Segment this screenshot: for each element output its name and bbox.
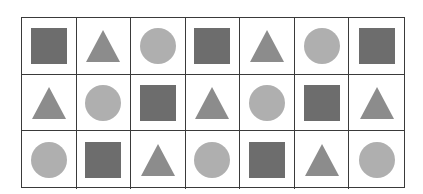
circle-icon <box>304 28 340 64</box>
circle-icon <box>249 85 285 121</box>
triangle-icon <box>195 87 229 119</box>
circle-icon <box>194 142 230 178</box>
square-icon <box>249 142 285 178</box>
grid-cell <box>131 18 186 75</box>
grid-cell <box>295 131 350 189</box>
square-icon <box>31 28 67 64</box>
grid-cell <box>186 131 241 189</box>
triangle-icon <box>86 30 120 62</box>
grid-cell <box>22 18 77 75</box>
circle-icon <box>140 28 176 64</box>
grid-cell <box>240 75 295 131</box>
grid-cell <box>77 75 132 131</box>
grid-cell <box>349 131 404 189</box>
grid-cell <box>240 131 295 189</box>
triangle-icon <box>141 144 175 176</box>
circle-icon <box>31 142 67 178</box>
grid-cell <box>349 18 404 75</box>
grid-cell <box>77 131 132 189</box>
square-icon <box>304 85 340 121</box>
grid-cell <box>349 75 404 131</box>
grid-cell <box>295 75 350 131</box>
circle-icon <box>85 85 121 121</box>
triangle-icon <box>305 144 339 176</box>
grid-cell <box>22 131 77 189</box>
triangle-icon <box>250 30 284 62</box>
square-icon <box>85 142 121 178</box>
grid-cell <box>22 75 77 131</box>
grid-cell <box>131 75 186 131</box>
triangle-icon <box>360 87 394 119</box>
square-icon <box>140 85 176 121</box>
shape-pattern-grid <box>21 17 405 188</box>
grid-cell <box>240 18 295 75</box>
grid-cell <box>186 75 241 131</box>
grid-cell <box>131 131 186 189</box>
square-icon <box>194 28 230 64</box>
square-icon <box>359 28 395 64</box>
triangle-icon <box>32 87 66 119</box>
grid-cell <box>77 18 132 75</box>
grid-cell <box>186 18 241 75</box>
grid-cell <box>295 18 350 75</box>
circle-icon <box>359 142 395 178</box>
